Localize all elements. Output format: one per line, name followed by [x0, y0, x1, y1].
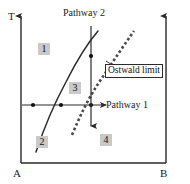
x-axis-right-label: B	[160, 168, 167, 179]
region-label-3: 3	[69, 82, 81, 94]
pathway-1-marker	[31, 103, 35, 107]
pathway-1-marker	[59, 103, 63, 107]
x-axis-left-label: A	[13, 168, 21, 179]
region-label-2: 2	[36, 136, 48, 148]
y-axis-label: T	[8, 11, 15, 22]
phase-diagram-figure: T A B 1 2 3 4 Pathway 2 Pathway 1 Ostwal…	[0, 0, 190, 184]
pathway-1-line	[22, 103, 106, 107]
region-label-4: 4	[100, 134, 112, 146]
pathway-1-label: Pathway 1	[106, 100, 148, 110]
ostwald-limit-curve	[72, 31, 134, 135]
region-label-1: 1	[38, 43, 50, 55]
pathway-2-marker	[89, 54, 93, 58]
pathway-2-label: Pathway 2	[63, 8, 105, 18]
diagram-canvas	[0, 0, 190, 184]
ostwald-limit-callout: Ostwald limit	[105, 64, 163, 78]
